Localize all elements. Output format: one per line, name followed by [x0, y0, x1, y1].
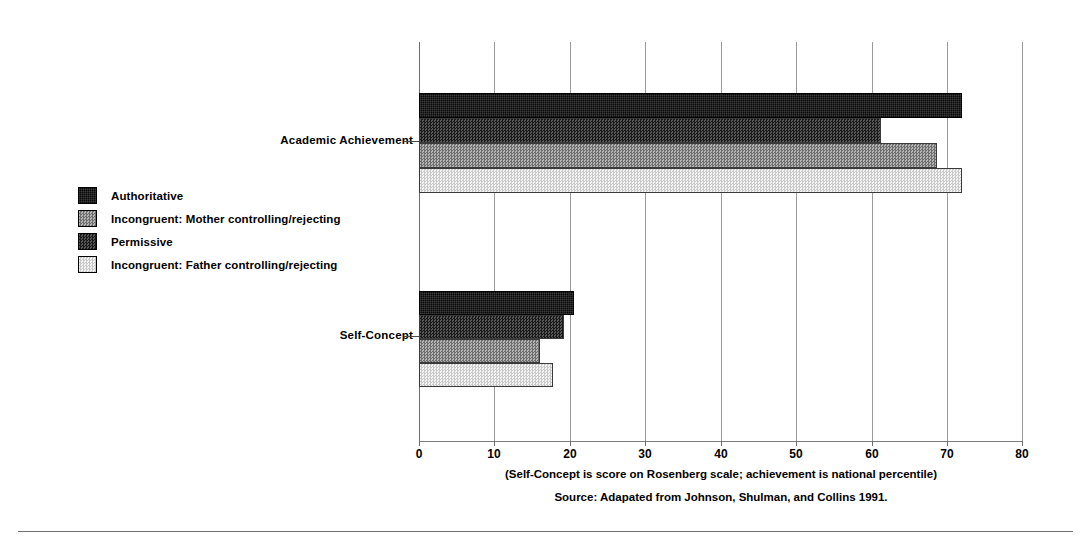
x-tick: [494, 441, 495, 446]
legend-item-father-controlling: Incongruent: Father controlling/rejectin…: [78, 253, 408, 276]
x-tick: [721, 441, 722, 446]
x-tick-label: 60: [865, 447, 878, 461]
bar-selfconcept-mother-controlling: [419, 315, 564, 339]
legend-item-authoritative: Authoritative: [78, 184, 408, 207]
x-tick-label: 20: [563, 447, 576, 461]
bottom-divider: [18, 531, 1073, 532]
legend-swatch-icon: [78, 187, 97, 204]
gridline-80: [1022, 42, 1023, 442]
category-label-self-concept: Self-Concept: [300, 329, 413, 341]
bar-selfconcept-authoritative: [419, 291, 574, 315]
x-axis-note: (Self-Concept is score on Rosenberg scal…: [419, 468, 1023, 480]
x-tick-label: 40: [714, 447, 727, 461]
x-tick-label: 70: [940, 447, 953, 461]
bar-academic-authoritative: [419, 93, 962, 118]
legend-item-label: Incongruent: Father controlling/rejectin…: [111, 259, 337, 271]
category-leader-line: [404, 336, 420, 337]
x-tick-label: 10: [487, 447, 500, 461]
x-tick-label: 80: [1015, 447, 1028, 461]
x-tick: [419, 441, 420, 446]
x-tick: [1022, 441, 1023, 446]
legend-item-label: Permissive: [111, 236, 173, 248]
plot-area: [419, 42, 1022, 442]
x-tick-label: 30: [638, 447, 651, 461]
bar-selfconcept-father-controlling: [419, 363, 553, 387]
category-label-academic-achievement: Academic Achievement: [248, 134, 413, 146]
x-tick: [796, 441, 797, 446]
chart-figure: Authoritative Incongruent: Mother contro…: [0, 0, 1091, 542]
bar-academic-mother-controlling: [419, 118, 881, 143]
x-tick: [947, 441, 948, 446]
bar-selfconcept-permissive: [419, 339, 540, 363]
legend-swatch-icon: [78, 233, 97, 250]
bar-academic-father-controlling: [419, 168, 962, 193]
x-tick: [872, 441, 873, 446]
legend-swatch-icon: [78, 256, 97, 273]
x-tick: [645, 441, 646, 446]
category-leader-line: [404, 141, 420, 142]
legend-item-label: Incongruent: Mother controlling/rejectin…: [111, 213, 341, 225]
legend-item-label: Authoritative: [111, 190, 183, 202]
legend-item-permissive: Permissive: [78, 230, 408, 253]
x-tick-label: 50: [789, 447, 802, 461]
source-note: Source: Adapated from Johnson, Shulman, …: [419, 491, 1023, 503]
legend-swatch-icon: [78, 210, 97, 227]
legend-item-mother-controlling: Incongruent: Mother controlling/rejectin…: [78, 207, 408, 230]
x-tick: [570, 441, 571, 446]
bar-academic-permissive: [419, 143, 937, 168]
x-tick-label: 0: [416, 447, 423, 461]
chart-legend: Authoritative Incongruent: Mother contro…: [78, 184, 408, 276]
